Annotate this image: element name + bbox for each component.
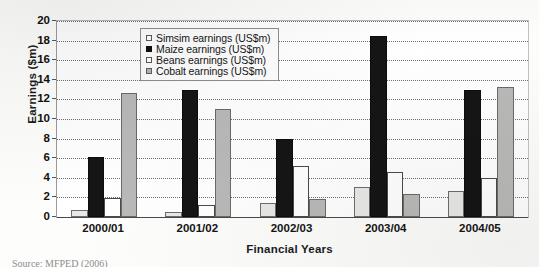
y-axis-tick-mark xyxy=(52,196,56,197)
bar-cobalt xyxy=(309,199,326,217)
bar-maize xyxy=(464,90,481,217)
bar-maize xyxy=(370,36,387,217)
y-axis-tick-mark xyxy=(52,79,56,80)
y-axis-tick-mark xyxy=(52,118,56,119)
bar-cobalt xyxy=(403,194,420,217)
legend-swatch-maize-icon xyxy=(146,46,152,52)
bar-beans xyxy=(198,205,215,217)
y-axis-tick-mark xyxy=(52,138,56,139)
figure-caption: Source: MFPED (2006) xyxy=(12,258,108,267)
legend-item: Simsim earnings (US$m) xyxy=(146,32,271,43)
bar-group xyxy=(71,21,137,217)
x-axis-tick-label: 2000/01 xyxy=(82,222,124,234)
y-axis-tick-label: 2 xyxy=(20,190,50,202)
bar-simsim xyxy=(354,187,371,217)
bar-simsim xyxy=(260,203,277,217)
gridline xyxy=(57,217,528,218)
y-axis-tick-mark xyxy=(52,157,56,158)
bar-beans xyxy=(293,166,310,217)
y-axis-tick-label: 8 xyxy=(20,132,50,144)
y-axis-tick-label: 20 xyxy=(20,14,50,26)
y-axis-tick-mark xyxy=(52,59,56,60)
bar-simsim xyxy=(165,212,182,217)
bar-cobalt xyxy=(497,87,514,217)
legend-item: Maize earnings (US$m) xyxy=(146,43,271,54)
y-axis-tick-label: 6 xyxy=(20,151,50,163)
y-axis-tick-label: 16 xyxy=(20,53,50,65)
legend-item: Beans earnings (US$m) xyxy=(146,54,271,65)
y-axis-tick-mark xyxy=(52,20,56,21)
bar-beans xyxy=(481,178,498,217)
bar-simsim xyxy=(71,210,88,217)
y-axis-tick-mark xyxy=(52,40,56,41)
y-axis-tick-label: 0 xyxy=(20,210,50,222)
y-axis-tick-mark xyxy=(52,216,56,217)
y-axis-tick-mark xyxy=(52,177,56,178)
x-axis-tick-label: 2002/03 xyxy=(271,222,313,234)
chart-figure: Earnings ($m) 20181614121086420 2000/012… xyxy=(0,0,539,267)
legend-swatch-cobalt-icon xyxy=(146,68,152,74)
y-axis-tick-label: 4 xyxy=(20,171,50,183)
y-axis-tick-label: 12 xyxy=(20,92,50,104)
chart-legend: Simsim earnings (US$m) Maize earnings (U… xyxy=(140,28,279,81)
bar-simsim xyxy=(448,191,465,217)
y-axis-tick-label: 10 xyxy=(20,112,50,124)
x-axis-tick-label: 2003/04 xyxy=(365,222,407,234)
bar-maize xyxy=(276,139,293,217)
legend-swatch-beans-icon xyxy=(146,57,152,63)
legend-item: Cobalt earnings (US$m) xyxy=(146,65,271,76)
bar-maize xyxy=(182,90,199,217)
bar-cobalt xyxy=(215,109,232,217)
bar-group xyxy=(354,21,420,217)
x-axis-title: Financial Years xyxy=(40,243,539,255)
x-axis-tick-label: 2004/05 xyxy=(459,222,501,234)
y-axis-tick-label: 18 xyxy=(20,34,50,46)
legend-label-cobalt: Cobalt earnings (US$m) xyxy=(156,65,266,77)
bar-group xyxy=(448,21,514,217)
plot-area xyxy=(56,20,529,218)
bar-beans xyxy=(387,172,404,217)
y-axis-tick-mark xyxy=(52,98,56,99)
bar-maize xyxy=(88,157,105,217)
y-axis-tick-label: 14 xyxy=(20,73,50,85)
legend-swatch-simsim-icon xyxy=(146,35,152,41)
x-axis-tick-label: 2001/02 xyxy=(177,222,219,234)
bar-cobalt xyxy=(121,93,138,217)
bar-beans xyxy=(104,198,121,217)
